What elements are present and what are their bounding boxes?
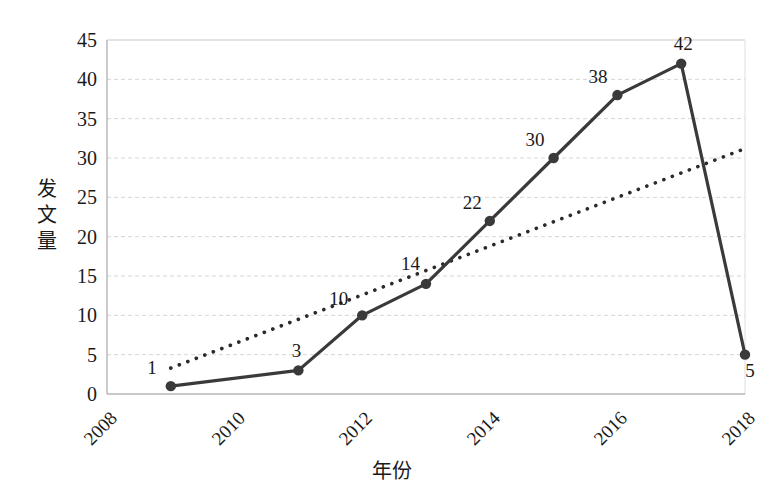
data-point-marker[interactable] bbox=[548, 153, 558, 163]
data-point-marker[interactable] bbox=[612, 90, 622, 100]
data-point-label: 5 bbox=[745, 360, 755, 381]
x-axis-title: 年份 bbox=[0, 455, 784, 484]
data-point-label: 22 bbox=[463, 192, 482, 213]
data-point-label: 10 bbox=[329, 288, 348, 309]
line-chart-figure: 发 文 量 051015202530354045 200820102012201… bbox=[0, 0, 784, 502]
data-point-marker[interactable] bbox=[293, 365, 303, 375]
plot-area: 131014223038425 bbox=[0, 0, 784, 502]
data-point-marker[interactable] bbox=[676, 58, 686, 68]
data-point-label: 42 bbox=[674, 33, 693, 54]
data-point-marker[interactable] bbox=[166, 381, 176, 391]
data-point-marker[interactable] bbox=[421, 279, 431, 289]
data-point-label: 30 bbox=[526, 129, 545, 150]
data-point-label: 1 bbox=[147, 357, 157, 378]
data-point-marker[interactable] bbox=[740, 349, 750, 359]
data-point-label: 3 bbox=[292, 340, 302, 361]
data-point-label: 38 bbox=[588, 66, 607, 87]
data-series-line bbox=[171, 64, 745, 387]
trendline-dotted bbox=[171, 149, 745, 368]
data-point-marker[interactable] bbox=[357, 310, 367, 320]
data-point-marker[interactable] bbox=[485, 216, 495, 226]
data-point-label: 14 bbox=[401, 253, 421, 274]
